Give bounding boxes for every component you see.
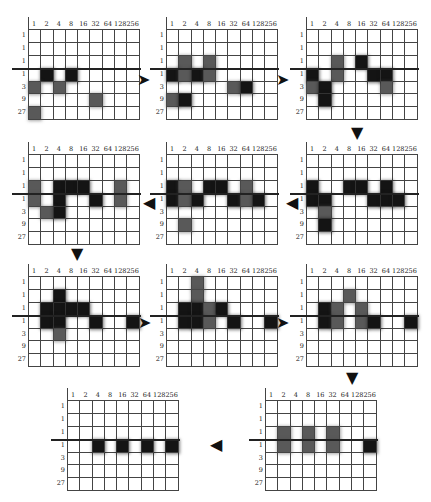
empty-cell [90, 341, 102, 354]
empty-cell [405, 69, 417, 82]
column-label: 128 [392, 144, 404, 154]
empty-cell [344, 155, 356, 168]
empty-cell [204, 341, 216, 354]
empty-cell [228, 43, 240, 56]
row-label: 1 [14, 180, 26, 193]
empty-cell [90, 155, 102, 168]
empty-cell [340, 440, 352, 453]
empty-cell [66, 316, 78, 329]
empty-cell [80, 465, 92, 478]
flow-arrow-6-to-5: ◀ [286, 195, 298, 211]
empty-cell [228, 354, 240, 367]
empty-cell [78, 329, 90, 342]
empty-cell [127, 277, 139, 290]
empty-cell [344, 207, 356, 220]
row-labels: 11113927 [152, 276, 164, 366]
empty-cell [241, 341, 253, 354]
flow-arrow-3-to-6: ▼ [351, 125, 363, 141]
column-label: 256 [404, 266, 416, 276]
empty-cell [405, 219, 417, 232]
empty-cell [167, 168, 179, 181]
empty-cell [142, 478, 154, 491]
empty-cell [332, 232, 344, 245]
empty-cell [179, 30, 191, 43]
black-cell [54, 290, 66, 303]
empty-cell [405, 354, 417, 367]
column-label: 128 [153, 390, 165, 400]
column-label: 16 [215, 19, 227, 29]
empty-cell [115, 316, 127, 329]
empty-cell [241, 207, 253, 220]
empty-cell [368, 107, 380, 120]
empty-cell [315, 465, 327, 478]
empty-cell [66, 329, 78, 342]
empty-cell [78, 219, 90, 232]
column-label: 2 [40, 19, 52, 29]
empty-cell [103, 277, 115, 290]
gray-cell [307, 82, 319, 95]
empty-cell [307, 277, 319, 290]
cell-grid [306, 154, 418, 245]
empty-cell [204, 232, 216, 245]
empty-cell [115, 94, 127, 107]
empty-cell [241, 155, 253, 168]
empty-cell [192, 107, 204, 120]
empty-cell [265, 30, 277, 43]
empty-cell [115, 82, 127, 95]
empty-cell [115, 43, 127, 56]
empty-cell [356, 207, 368, 220]
empty-cell [278, 453, 290, 466]
empty-cell [127, 232, 139, 245]
empty-cell [179, 290, 191, 303]
column-label: 64 [339, 390, 351, 400]
black-cell [41, 69, 53, 82]
black-cell [179, 316, 191, 329]
gray-cell [327, 440, 339, 453]
empty-cell [228, 30, 240, 43]
empty-cell [41, 43, 53, 56]
empty-cell [166, 465, 178, 478]
empty-cell [303, 465, 315, 478]
empty-cell [115, 107, 127, 120]
empty-cell [167, 341, 179, 354]
empty-cell [90, 329, 102, 342]
empty-cell [319, 168, 331, 181]
empty-cell [167, 107, 179, 120]
empty-cell [253, 82, 265, 95]
empty-cell [381, 277, 393, 290]
row-label: 1 [152, 289, 164, 302]
column-label: 256 [404, 19, 416, 29]
empty-cell [115, 155, 127, 168]
black-cell [228, 194, 240, 207]
black-cell [381, 69, 393, 82]
empty-cell [154, 401, 166, 414]
row-labels: 11113927 [14, 29, 26, 119]
column-label: 2 [40, 144, 52, 154]
column-label: 1 [166, 19, 178, 29]
row-labels: 11113927 [152, 29, 164, 119]
empty-cell [78, 168, 90, 181]
empty-cell [90, 232, 102, 245]
empty-cell [192, 219, 204, 232]
column-label: 1 [306, 19, 318, 29]
row-label: 1 [152, 276, 164, 289]
empty-cell [319, 155, 331, 168]
black-cell [265, 316, 277, 329]
empty-cell [332, 290, 344, 303]
empty-cell [405, 82, 417, 95]
empty-cell [129, 453, 141, 466]
empty-cell [216, 82, 228, 95]
column-header: 1248163264128256 [28, 144, 139, 154]
black-cell [307, 69, 319, 82]
empty-cell [241, 69, 253, 82]
empty-cell [356, 168, 368, 181]
empty-cell [167, 329, 179, 342]
row-labels: 11113927 [292, 29, 304, 119]
empty-cell [127, 43, 139, 56]
black-cell [90, 316, 102, 329]
empty-cell [204, 30, 216, 43]
header-divider [306, 142, 307, 154]
empty-cell [303, 478, 315, 491]
column-label: 16 [355, 19, 367, 29]
empty-cell [192, 30, 204, 43]
